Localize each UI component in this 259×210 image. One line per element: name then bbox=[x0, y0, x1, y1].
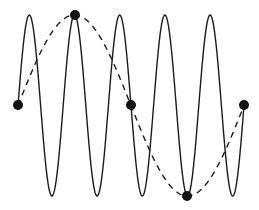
sample-point-5 bbox=[239, 100, 249, 110]
sample-point-4 bbox=[182, 191, 192, 201]
sample-point-2 bbox=[70, 10, 80, 20]
sample-point-1 bbox=[13, 100, 23, 110]
sample-point-3 bbox=[126, 100, 136, 110]
aliasing-diagram bbox=[0, 0, 259, 210]
